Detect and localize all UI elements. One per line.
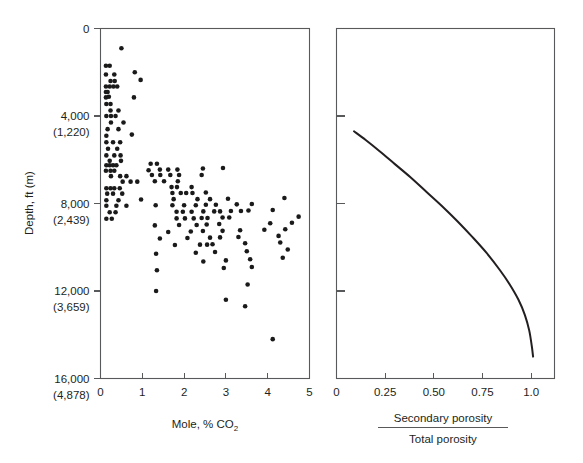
scatter-point bbox=[283, 227, 288, 232]
scatter-point bbox=[173, 243, 178, 248]
scatter-point bbox=[182, 203, 187, 208]
left-x-axis-ticks bbox=[101, 373, 310, 379]
scatter-point bbox=[111, 140, 116, 145]
scatter-point bbox=[226, 196, 231, 201]
scatter-point bbox=[113, 114, 118, 119]
scatter-point bbox=[108, 79, 113, 84]
scatter-point bbox=[109, 217, 114, 222]
scatter-point bbox=[204, 222, 209, 227]
scatter-point bbox=[107, 210, 112, 215]
scatter-point bbox=[175, 185, 180, 190]
scatter-point bbox=[124, 174, 129, 179]
scatter-point bbox=[154, 289, 159, 294]
scatter-point bbox=[184, 191, 189, 196]
scatter-point bbox=[162, 179, 167, 184]
scatter-point bbox=[104, 114, 109, 119]
scatter-point bbox=[190, 191, 195, 196]
scatter-point bbox=[107, 63, 112, 68]
left-y-tick-label-ft: 12,000 bbox=[54, 285, 89, 297]
right-x-tick-label: 0.75 bbox=[471, 386, 493, 398]
left-x-tick-label: 4 bbox=[264, 386, 271, 398]
scatter-point bbox=[112, 72, 117, 77]
scatter-point bbox=[169, 185, 174, 190]
left-x-axis-tick-labels: 012345 bbox=[97, 386, 312, 398]
right-x-tick-label: 0 bbox=[333, 386, 339, 398]
right-x-tick-label: 1.0 bbox=[523, 386, 539, 398]
scatter-point bbox=[119, 159, 124, 164]
scatter-point bbox=[229, 209, 234, 214]
scatter-point bbox=[118, 174, 123, 179]
scatter-point bbox=[205, 242, 210, 247]
scatter-point bbox=[109, 114, 114, 119]
scatter-point bbox=[220, 215, 225, 220]
scatter-point bbox=[248, 257, 253, 262]
scatter-point bbox=[128, 179, 133, 184]
scatter-point bbox=[222, 266, 227, 271]
scatter-point bbox=[104, 186, 109, 191]
scatter-point bbox=[153, 223, 158, 228]
scatter-point bbox=[213, 250, 218, 255]
scatter-point bbox=[201, 259, 206, 264]
scatter-point bbox=[224, 258, 229, 263]
right-x-tick-label: 0.25 bbox=[374, 386, 396, 398]
scatter-point bbox=[105, 127, 110, 132]
scatter-point bbox=[166, 167, 171, 172]
scatter-point bbox=[205, 216, 210, 221]
scatter-point bbox=[194, 250, 199, 255]
scatter-point bbox=[170, 203, 175, 208]
scatter-point bbox=[105, 90, 110, 95]
scatter-point bbox=[166, 230, 171, 235]
scatter-point bbox=[217, 222, 222, 227]
scatter-point bbox=[111, 191, 116, 196]
left-y-tick-label-m: (1,220) bbox=[53, 126, 90, 138]
scatter-point bbox=[243, 241, 248, 246]
porosity-trend-curve bbox=[354, 131, 533, 356]
scatter-point bbox=[132, 70, 137, 75]
scatter-point bbox=[176, 179, 181, 184]
scatter-point bbox=[118, 153, 123, 158]
scatter-point bbox=[108, 102, 113, 107]
scatter-point bbox=[199, 216, 204, 221]
scatter-point bbox=[120, 179, 125, 184]
scatter-points bbox=[104, 46, 301, 342]
scientific-figure: 04,000(1,220)8,000(2,439)12,000(3,659)16… bbox=[0, 0, 583, 463]
scatter-point bbox=[174, 216, 179, 221]
scatter-point bbox=[208, 197, 213, 202]
right-x-axis-tick-labels: 00.250.500.751.0 bbox=[333, 386, 539, 398]
left-y-axis-title: Depth, ft (m) bbox=[23, 171, 35, 235]
scatter-point bbox=[208, 235, 213, 240]
scatter-point bbox=[109, 120, 114, 125]
scatter-point bbox=[201, 166, 206, 171]
scatter-point bbox=[118, 140, 123, 145]
scatter-point bbox=[290, 220, 295, 225]
scatter-point bbox=[178, 191, 183, 196]
scatter-point bbox=[158, 173, 163, 178]
scatter-point bbox=[201, 229, 206, 234]
scatter-point bbox=[155, 161, 160, 166]
scatter-point bbox=[194, 203, 199, 208]
scatter-point bbox=[158, 236, 163, 241]
left-panel-scatter: 04,000(1,220)8,000(2,439)12,000(3,659)16… bbox=[23, 23, 313, 434]
scatter-point bbox=[191, 216, 196, 221]
scatter-point bbox=[139, 197, 144, 202]
scatter-point bbox=[119, 46, 124, 51]
left-y-axis-ticks bbox=[94, 29, 101, 379]
scatter-point bbox=[214, 203, 219, 208]
scatter-point bbox=[218, 209, 223, 214]
scatter-point bbox=[121, 120, 126, 125]
scatter-point bbox=[296, 214, 301, 219]
scatter-point bbox=[220, 229, 225, 234]
scatter-point bbox=[107, 94, 112, 99]
scatter-point bbox=[135, 179, 140, 184]
scatter-point bbox=[114, 163, 119, 168]
scatter-point bbox=[155, 268, 160, 273]
right-x-axis-ticks bbox=[337, 373, 532, 379]
scatter-point bbox=[194, 223, 199, 228]
left-y-tick-label-ft: 8,000 bbox=[61, 198, 90, 210]
left-y-axis-tick-labels: 04,000(1,220)8,000(2,439)12,000(3,659)16… bbox=[53, 23, 90, 401]
scatter-point bbox=[199, 173, 204, 178]
scatter-point bbox=[198, 242, 203, 247]
scatter-point bbox=[238, 228, 243, 233]
scatter-point bbox=[224, 297, 229, 302]
scatter-point bbox=[109, 174, 114, 179]
